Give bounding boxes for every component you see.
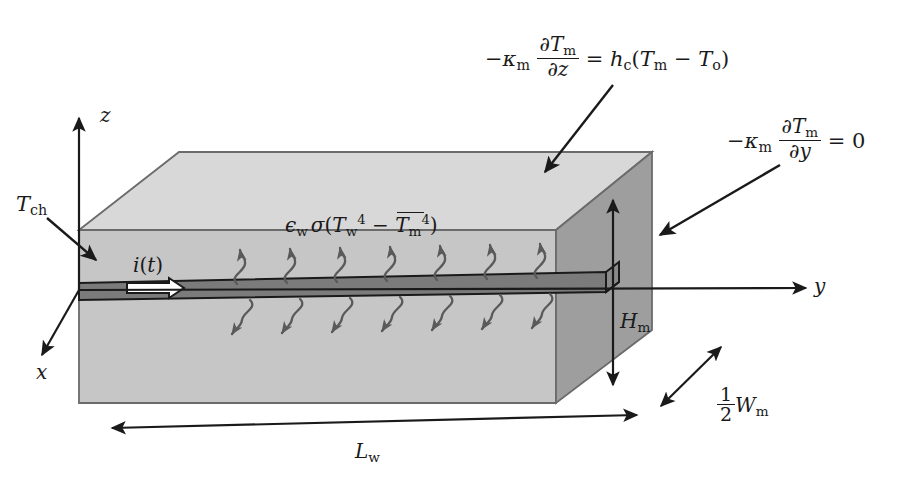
overbar — [397, 212, 425, 213]
axis-label-x: x — [36, 362, 47, 382]
derivative-numerator: ∂Tm — [537, 34, 579, 58]
tm-mean-symbol: T — [395, 213, 408, 237]
partial-derivative-z: ∂Tm ∂z — [537, 34, 579, 79]
y-variable: y — [799, 139, 810, 163]
tw-symbol: T — [332, 213, 345, 237]
tw-subscript: w — [346, 223, 358, 239]
width-symbol: W — [735, 393, 756, 417]
diagram-svg — [0, 0, 923, 487]
current-close-paren: ) — [155, 253, 163, 277]
axis-label-y: y — [814, 276, 825, 296]
tm-symbol: T — [640, 47, 654, 71]
label-half-mold-width: 1 2 Wm — [717, 385, 769, 425]
label-current: i(t) — [133, 255, 163, 275]
temperature-subscript: m — [563, 42, 576, 58]
label-wire-length: Lw — [355, 441, 380, 464]
close-paren: ) — [721, 47, 729, 71]
h-subscript: c — [624, 57, 632, 73]
partial-symbol-y-den: ∂ — [789, 139, 799, 163]
to-symbol: T — [698, 47, 712, 71]
epsilon-subscript: w — [296, 223, 308, 239]
h-symbol: h — [610, 47, 624, 71]
derivative-denominator-y: ∂y — [779, 140, 821, 161]
fraction-numerator: 1 — [717, 385, 735, 404]
epsilon-symbol: ϵ — [285, 213, 296, 237]
equation-top-boundary-condition: −κm ∂Tm ∂z = hc(Tm − To) — [485, 34, 729, 79]
label-mold-height: Hm — [620, 311, 650, 334]
derivative-numerator-y: ∂Tm — [779, 116, 821, 140]
tch-symbol: T — [16, 192, 30, 216]
partial-symbol-y: ∂ — [782, 114, 792, 138]
dimension-half-width — [661, 347, 721, 406]
z-variable: z — [558, 57, 569, 81]
derivative-denominator: ∂z — [537, 58, 579, 79]
subtraction-sign: − — [674, 47, 692, 71]
sigma-symbol: σ — [308, 213, 325, 237]
radiation-minus: − — [372, 213, 389, 237]
tm-mean-overbar-group: Tm4 — [395, 213, 430, 239]
height-subscript: m — [637, 319, 650, 335]
temperature-subscript-y: m — [805, 124, 818, 140]
partial-derivative-y: ∂Tm ∂y — [779, 116, 821, 161]
equals-sign: = — [586, 47, 604, 71]
temperature-symbol-y: T — [792, 114, 805, 138]
equation-right-boundary-condition: −κm ∂Tm ∂y = 0 — [727, 116, 865, 161]
equation-radiation-term: ϵwσ(Tw4 − Tm4) — [285, 213, 438, 239]
height-symbol: H — [620, 309, 637, 333]
tm-subscript: m — [654, 57, 668, 73]
zero-value: 0 — [852, 129, 865, 153]
to-subscript: o — [712, 57, 721, 73]
minus-sign-right: − — [727, 129, 745, 153]
open-paren: ( — [632, 47, 640, 71]
equals-sign-right: = — [828, 129, 846, 153]
tch-subscript: ch — [30, 202, 47, 218]
kappa-symbol: κ — [503, 47, 517, 71]
tm-mean-exponent: 4 — [421, 212, 429, 227]
kappa-symbol-right: κ — [745, 129, 759, 153]
leader-arrow-right-bc — [660, 165, 780, 235]
label-chip-temperature: Tch — [16, 194, 47, 217]
one-half-fraction: 1 2 — [717, 385, 735, 425]
tw-exponent: 4 — [357, 212, 365, 227]
width-subscript: m — [756, 403, 769, 419]
partial-symbol: ∂ — [540, 32, 550, 56]
axis-label-z: z — [100, 105, 111, 125]
partial-symbol-den: ∂ — [547, 57, 557, 81]
kappa-subscript-right: m — [758, 139, 772, 155]
length-symbol: L — [355, 439, 368, 463]
dimension-length — [112, 415, 637, 428]
kappa-subscript: m — [516, 57, 530, 73]
axis-x — [42, 290, 79, 355]
length-subscript: w — [368, 449, 380, 465]
radiation-close-paren: ) — [430, 213, 438, 237]
diagram-canvas: −κm ∂Tm ∂z = hc(Tm − To) −κm ∂Tm ∂y = 0 … — [0, 0, 923, 487]
fraction-denominator: 2 — [717, 404, 735, 424]
temperature-symbol: T — [550, 32, 563, 56]
minus-sign: − — [485, 47, 503, 71]
tm-mean-subscript: m — [409, 223, 422, 239]
